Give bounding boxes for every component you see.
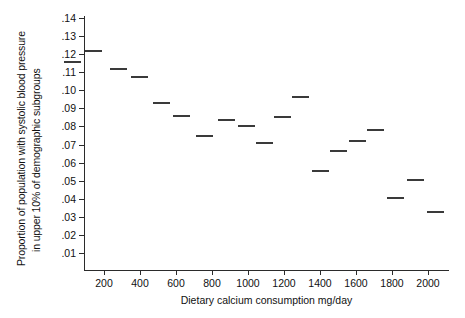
data-point-marker [196, 135, 213, 137]
y-tick-label: .10 [50, 85, 76, 95]
y-tick [79, 36, 84, 37]
x-tick [320, 270, 321, 275]
data-point-marker [85, 50, 102, 52]
y-tick-label: .03 [50, 212, 76, 222]
y-tick [79, 126, 84, 127]
y-tick [79, 217, 84, 218]
y-tick [79, 235, 84, 236]
data-point-marker [153, 102, 170, 104]
x-tick-label: 1000 [228, 278, 268, 289]
x-axis-title: Dietary calcium consumption mg/day [84, 294, 449, 306]
y-tick [79, 18, 84, 19]
y-tick-label: .13 [50, 31, 76, 41]
y-tick-label: .14 [50, 13, 76, 23]
data-point-marker [218, 119, 235, 121]
data-point-marker [292, 96, 309, 98]
x-tick [140, 270, 141, 275]
y-tick-label: .08 [50, 121, 76, 131]
y-axis-title-line-2: in upper 10% of demographic subgroups [30, 68, 42, 252]
y-tick-label-wrap: .03 [48, 212, 76, 222]
y-tick-label: .05 [50, 176, 76, 186]
data-point-marker [274, 116, 291, 118]
data-point-marker [110, 68, 127, 70]
y-tick-label: .07 [50, 140, 76, 150]
x-tick-label: 1400 [300, 278, 340, 289]
data-point-marker [256, 142, 273, 144]
y-tick [79, 90, 84, 91]
data-point-marker [427, 211, 444, 213]
y-axis-title: Proportion of population with systolic b… [0, 0, 46, 275]
chart-container: Proportion of population with systolic b… [0, 0, 465, 318]
x-tick-label: 800 [192, 278, 232, 289]
x-axis-line [84, 270, 449, 271]
x-tick [176, 270, 177, 275]
y-tick-label-wrap: .02 [48, 230, 76, 240]
y-tick-label: .11 [50, 67, 76, 77]
y-tick-label-wrap: .09 [48, 103, 76, 113]
y-tick-label-wrap: .01 [48, 248, 76, 258]
y-tick-label-wrap: .10 [48, 85, 76, 95]
x-tick [392, 270, 393, 275]
y-tick-label-wrap: .12 [48, 49, 76, 59]
data-point-marker [131, 76, 148, 78]
data-point-marker [349, 140, 366, 142]
y-tick-label-wrap: .11 [48, 67, 76, 77]
data-point-marker [407, 179, 424, 181]
y-tick [79, 145, 84, 146]
y-tick [79, 54, 84, 55]
y-axis-title-line-1: Proportion of population with systolic b… [15, 31, 27, 266]
y-tick-label-wrap: .14 [48, 13, 76, 23]
x-tick-label: 1200 [264, 278, 304, 289]
x-tick [356, 270, 357, 275]
y-tick-label-wrap: .08 [48, 121, 76, 131]
data-point-marker [64, 61, 81, 63]
y-tick [79, 108, 84, 109]
x-tick-label: 400 [120, 278, 160, 289]
x-tick [104, 270, 105, 275]
x-tick-label: 600 [156, 278, 196, 289]
y-tick [79, 199, 84, 200]
data-point-marker [367, 129, 384, 131]
x-tick-label: 200 [84, 278, 124, 289]
data-point-marker [238, 125, 255, 127]
data-point-marker [387, 197, 404, 199]
y-tick-label: .09 [50, 103, 76, 113]
y-tick-label-wrap: .04 [48, 194, 76, 204]
y-tick-label: .02 [50, 230, 76, 240]
x-tick-label: 1800 [372, 278, 412, 289]
y-tick-label: .12 [50, 49, 76, 59]
x-tick [248, 270, 249, 275]
y-tick [79, 163, 84, 164]
y-tick-label-wrap: .06 [48, 158, 76, 168]
y-axis-line [84, 16, 85, 271]
y-tick-label-wrap: .13 [48, 31, 76, 41]
y-tick-label-wrap: .07 [48, 140, 76, 150]
x-tick [428, 270, 429, 275]
y-tick-label: .04 [50, 194, 76, 204]
x-tick-label: 2000 [408, 278, 448, 289]
y-tick-label: .06 [50, 158, 76, 168]
y-tick [79, 253, 84, 254]
x-tick [212, 270, 213, 275]
y-tick [79, 72, 84, 73]
data-point-marker [330, 150, 347, 152]
y-tick-label-wrap: .05 [48, 176, 76, 186]
x-tick [284, 270, 285, 275]
data-point-marker [312, 170, 329, 172]
x-tick-label: 1600 [336, 278, 376, 289]
y-tick-label: .01 [50, 248, 76, 258]
y-tick [79, 181, 84, 182]
data-point-marker [173, 115, 190, 117]
